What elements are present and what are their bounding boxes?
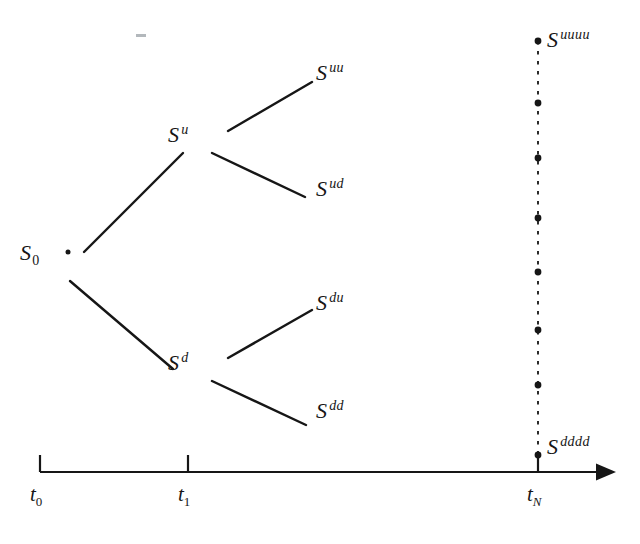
- node-label-base: S: [168, 350, 179, 375]
- node-label-sdu: Sdu: [316, 290, 344, 316]
- terminal-node-dot-2: [535, 155, 542, 162]
- node-label-superscript: dddd: [558, 434, 590, 449]
- node-label-subscript: 0: [31, 253, 39, 268]
- node-label-sd: Sd: [168, 350, 189, 376]
- node-label-base: S: [316, 176, 327, 201]
- terminal-dashed-column: [535, 41, 542, 473]
- node-label-superscript: du: [327, 290, 344, 305]
- node-label-suu: Suu: [316, 60, 344, 86]
- axis-tick-label-tN: tN: [527, 482, 542, 510]
- node-label-base: S: [316, 398, 327, 423]
- terminal-node-dot-6: [535, 382, 542, 389]
- terminal-node-dot-3: [535, 215, 542, 222]
- axis-arrowhead-icon: [596, 464, 616, 481]
- node-label-base: S: [20, 240, 31, 265]
- node-label-base: S: [547, 27, 558, 52]
- node-label-s0: S0: [20, 240, 39, 269]
- terminal-node-dot-5: [535, 327, 542, 334]
- terminal-node-dot-4: [535, 269, 542, 276]
- node-label-su: Su: [168, 122, 189, 148]
- node-label-superscript: dd: [327, 398, 344, 413]
- axis-tick-label-subscript: N: [533, 494, 542, 509]
- tree-edge-s0-to-su: [84, 153, 183, 252]
- node-label-base: S: [316, 290, 327, 315]
- tree-node-dots: [66, 38, 542, 459]
- tree-edge-su-to-sud: [212, 153, 305, 197]
- tree-edge-s0-to-sd: [70, 281, 173, 369]
- tree-edge-sd-to-sdu: [228, 310, 312, 358]
- node-label-superscript: d: [179, 350, 188, 365]
- time-axis: [40, 455, 616, 481]
- node-label-superscript: u: [179, 122, 188, 137]
- axis-tick-label-subscript: 1: [184, 494, 191, 509]
- node-label-superscript: uu: [327, 60, 344, 75]
- axis-tick-label-subscript: 0: [36, 494, 43, 509]
- node-label-superscript: uuuu: [558, 27, 590, 42]
- axis-tick-label-t1: t1: [178, 482, 190, 510]
- node-label-base: S: [168, 122, 179, 147]
- axis-tick-label-t0: t0: [30, 482, 42, 510]
- node-label-sud: Sud: [316, 176, 344, 202]
- node-label-base: S: [316, 60, 327, 85]
- tree-edges: [70, 82, 312, 425]
- node-label-sdddd: Sdddd: [547, 434, 590, 460]
- tree-edge-sd-to-sdd: [212, 381, 306, 425]
- node-dot-suuuu: [535, 38, 542, 45]
- node-dot-s0: [66, 250, 71, 255]
- node-label-superscript: ud: [327, 176, 344, 191]
- scan-artifact-icon: [136, 34, 146, 37]
- terminal-node-dot-1: [535, 100, 542, 107]
- scan-artifact-mark: [136, 34, 146, 37]
- tree-edge-su-to-suu: [228, 82, 312, 131]
- node-label-base: S: [547, 434, 558, 459]
- node-label-sdd: Sdd: [316, 398, 344, 424]
- node-label-suuuu: Suuuu: [547, 27, 590, 53]
